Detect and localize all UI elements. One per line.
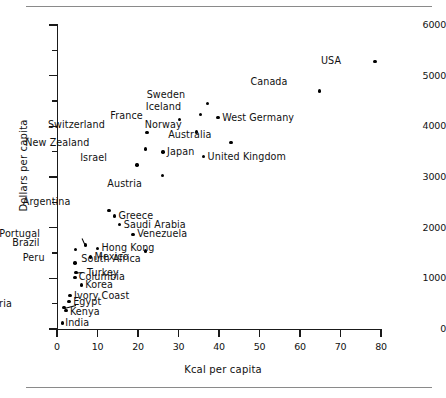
point-label-canada: Canada	[250, 77, 287, 87]
data-point-japan[interactable]	[161, 150, 164, 153]
point-label-new-zealand: New Zealand	[25, 138, 89, 148]
y-minor-tick-5500	[52, 50, 58, 51]
point-label-france: France	[110, 111, 143, 121]
data-point-canada[interactable]	[318, 89, 321, 92]
data-point-ivory-coast[interactable]	[68, 294, 71, 297]
y-tick-1000	[49, 278, 58, 279]
point-label-australia: Australia	[168, 130, 211, 140]
figure-container: 0100020003000400050006000 01020304050607…	[0, 0, 446, 398]
y-tick-6000	[49, 24, 58, 25]
y-tick-2000	[49, 227, 58, 228]
x-tick-0	[56, 329, 57, 337]
data-point-portugal[interactable]	[84, 243, 87, 246]
point-label-korea: Korea	[85, 280, 113, 290]
point-label-austria: Austria	[107, 179, 142, 189]
y-minor-tick-4500	[52, 100, 58, 101]
y-minor-tick-1500	[52, 252, 58, 253]
data-point-kenya[interactable]	[64, 309, 67, 312]
scatter-plot: 0100020003000400050006000 01020304050607…	[0, 0, 446, 398]
data-point-saudi-arabia[interactable]	[118, 223, 121, 226]
point-label-egypt: Egypt	[73, 297, 101, 307]
data-point-israel[interactable]	[135, 163, 138, 166]
x-tick-label-80: 80	[366, 341, 396, 352]
data-point-austria[interactable]	[161, 174, 164, 177]
point-label-united-kingdom: United Kingdom	[208, 152, 286, 162]
point-label-sweden: Sweden	[147, 90, 186, 100]
data-point-west-germany[interactable]	[216, 116, 219, 119]
point-label-kenya: Kenya	[70, 307, 100, 317]
x-tick-label-10: 10	[83, 341, 113, 352]
data-point-brazil[interactable]	[74, 248, 77, 251]
point-label-japan: Japan	[167, 147, 194, 157]
y-tick-label-5000: 5000	[398, 70, 446, 81]
x-tick-label-60: 60	[285, 341, 315, 352]
data-point-greece[interactable]	[113, 214, 116, 217]
point-label-israel: Israel	[80, 153, 107, 163]
y-tick-label-2000: 2000	[398, 222, 446, 233]
data-point-new-zealand[interactable]	[144, 147, 147, 150]
point-label-nigeria: Nigeria	[0, 299, 12, 309]
x-tick-label-40: 40	[204, 341, 234, 352]
y-minor-tick-500	[52, 303, 58, 304]
data-point-iceland[interactable]	[199, 113, 202, 116]
data-point-turkey[interactable]	[74, 271, 77, 274]
x-axis-title: Kcal per capita	[0, 364, 446, 375]
x-tick-40	[218, 329, 219, 337]
data-point-hong-kong[interactable]	[96, 247, 99, 250]
data-point-venezuela[interactable]	[131, 233, 134, 236]
x-tick-30	[178, 329, 179, 337]
data-point-usa[interactable]	[373, 60, 376, 63]
y-tick-label-1000: 1000	[398, 272, 446, 283]
y-tick-label-3000: 3000	[398, 171, 446, 182]
x-tick-20	[137, 329, 138, 337]
y-tick-label-4000: 4000	[398, 120, 446, 131]
data-point-united-kingdom[interactable]	[202, 155, 205, 158]
data-point-india[interactable]	[61, 321, 64, 324]
point-label-west-germany: West Germany	[222, 113, 294, 123]
y-tick-5000	[49, 75, 58, 76]
point-label-india: India	[65, 318, 89, 328]
y-minor-tick-3500	[52, 151, 58, 152]
x-tick-60	[299, 329, 300, 337]
point-label-mexico: Mexico	[95, 252, 129, 262]
data-point-egypt[interactable]	[67, 300, 70, 303]
data-point-peru[interactable]	[73, 261, 76, 264]
x-tick-70	[340, 329, 341, 337]
data-point-south-africa[interactable]	[144, 249, 147, 252]
y-axis-title: Dollars per capita	[18, 86, 29, 246]
point-label-argentina: Argentina	[23, 197, 71, 207]
data-point-australia[interactable]	[229, 141, 232, 144]
point-label-peru: Peru	[23, 253, 45, 263]
x-tick-10	[97, 329, 98, 337]
x-tick-50	[259, 329, 260, 337]
x-tick-80	[380, 329, 381, 337]
data-point-switzerland[interactable]	[145, 131, 148, 134]
y-tick-label-6000: 6000	[398, 19, 446, 30]
point-label-iceland: Iceland	[146, 102, 181, 112]
point-label-venezuela: Venezuela	[137, 229, 187, 239]
y-tick-3000	[49, 176, 58, 177]
x-tick-label-70: 70	[326, 341, 356, 352]
data-point-argentina[interactable]	[107, 209, 110, 212]
point-label-usa: USA	[321, 56, 341, 66]
data-point-sweden[interactable]	[206, 102, 209, 105]
data-point-korea[interactable]	[80, 283, 83, 286]
y-tick-label-0: 0	[398, 323, 446, 334]
x-tick-label-30: 30	[164, 341, 194, 352]
x-tick-label-0: 0	[42, 341, 72, 352]
data-point-mexico[interactable]	[89, 255, 92, 258]
point-label-switzerland: Switzerland	[48, 120, 105, 130]
data-point-columbia[interactable]	[73, 276, 76, 279]
x-tick-label-20: 20	[123, 341, 153, 352]
x-tick-label-50: 50	[245, 341, 275, 352]
